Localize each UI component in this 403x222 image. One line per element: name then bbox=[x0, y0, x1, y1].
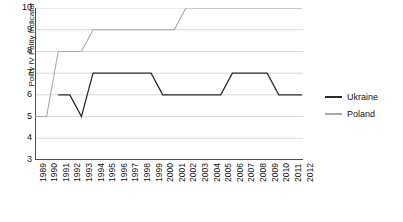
legend-item[interactable]: Ukraine bbox=[325, 88, 403, 105]
x-tick-label: 1993 bbox=[85, 163, 94, 182]
data-series bbox=[35, 8, 302, 117]
y-tick-label: 7 bbox=[16, 68, 32, 77]
chart-svg bbox=[35, 8, 303, 160]
x-axis-tick-labels: 1989199019911992199319941995199619971998… bbox=[35, 160, 303, 222]
y-tick-label: 9 bbox=[16, 25, 32, 34]
x-tick-label: 2003 bbox=[201, 163, 210, 182]
x-tick-label: 2000 bbox=[166, 163, 175, 182]
y-tick-label: 8 bbox=[16, 46, 32, 55]
x-tick-label: 1999 bbox=[155, 163, 164, 182]
x-tick-label: 2009 bbox=[271, 163, 280, 182]
x-tick-label: 2011 bbox=[294, 164, 303, 182]
x-tick-label: 1997 bbox=[131, 163, 140, 182]
y-tick-label: 3 bbox=[16, 155, 32, 164]
legend-item[interactable]: Poland bbox=[325, 105, 403, 122]
x-tick-label: 2001 bbox=[178, 163, 187, 182]
legend-color-swatch bbox=[325, 96, 342, 98]
x-tick-label: 2004 bbox=[213, 163, 222, 182]
y-tick-label: 5 bbox=[16, 112, 32, 121]
x-tick-label: 2010 bbox=[282, 163, 291, 182]
gridlines bbox=[35, 8, 303, 160]
x-tick-label: 2005 bbox=[224, 163, 233, 182]
x-tick-label: 2007 bbox=[247, 163, 256, 182]
plot-area bbox=[35, 8, 303, 160]
x-tick-label: 2008 bbox=[259, 163, 268, 182]
legend-color-swatch bbox=[325, 113, 342, 115]
x-tick-label: 1996 bbox=[120, 163, 129, 182]
legend-label: Poland bbox=[347, 109, 375, 119]
y-tick-label: 6 bbox=[16, 90, 32, 99]
x-tick-label: 1989 bbox=[39, 163, 48, 182]
x-tick-label: 1994 bbox=[97, 163, 106, 182]
y-axis-tick-labels: 109876543 bbox=[14, 0, 32, 222]
x-tick-label: 2012 bbox=[306, 163, 315, 182]
chart-legend: UkrainePoland bbox=[325, 88, 403, 122]
x-tick-label: 1990 bbox=[50, 163, 59, 182]
x-tick-label: 1998 bbox=[143, 163, 152, 182]
x-tick-label: 2006 bbox=[236, 163, 245, 182]
legend-label: Ukraine bbox=[347, 92, 378, 102]
x-tick-label: 1995 bbox=[108, 163, 117, 182]
x-tick-label: 2002 bbox=[189, 163, 198, 182]
x-tick-label: 1992 bbox=[73, 163, 82, 182]
axis-lines bbox=[35, 8, 303, 160]
y-tick-label: 10 bbox=[16, 3, 32, 12]
x-tick-label: 1991 bbox=[62, 163, 71, 182]
y-tick-label: 4 bbox=[16, 133, 32, 142]
chart-figure: Polity IV Polity Indicator 109876543 198… bbox=[0, 0, 403, 222]
